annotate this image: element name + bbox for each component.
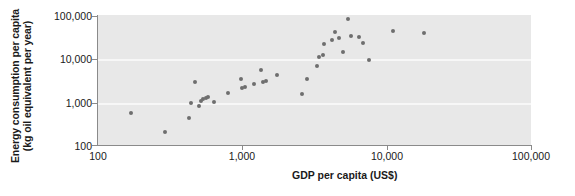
data-point <box>367 58 371 62</box>
data-point <box>243 85 247 89</box>
x-tick-label-10000: 10,000 <box>371 150 403 162</box>
data-point <box>187 116 191 120</box>
data-point <box>300 92 304 96</box>
data-point <box>163 130 167 134</box>
data-point <box>252 82 256 86</box>
data-point <box>422 31 426 35</box>
gridline-10000 <box>98 59 531 61</box>
data-point <box>212 100 216 104</box>
data-point <box>259 68 263 72</box>
x-axis-title: GDP per capita (US$) <box>292 169 397 181</box>
scatter-chart: Energy consumption per capita (kg oil eq… <box>0 0 575 196</box>
data-point <box>193 80 197 84</box>
data-point <box>275 73 279 77</box>
x-tick-label-100000: 100,000 <box>512 150 550 162</box>
data-point <box>330 38 334 42</box>
y-tick-label-100000: 100,000 <box>30 10 92 22</box>
data-point <box>239 77 243 81</box>
gridline-1000 <box>98 103 531 105</box>
data-point <box>305 77 309 81</box>
y-tick-label-100: 100 <box>30 140 92 152</box>
data-point <box>346 17 350 21</box>
data-point <box>189 101 193 105</box>
plot-area <box>98 15 531 145</box>
data-point <box>361 41 365 45</box>
x-tick-mark-100000 <box>531 145 532 150</box>
y-tick-label-10000: 10,000 <box>30 53 92 65</box>
data-point <box>333 30 337 34</box>
data-point <box>349 34 353 38</box>
x-tick-label-100: 100 <box>89 150 107 162</box>
data-point <box>357 35 361 39</box>
y-tick-label-1000: 1,000 <box>30 97 92 109</box>
x-tick-mark-1000 <box>242 145 243 150</box>
x-tick-label-1000: 1,000 <box>229 150 255 162</box>
y-axis-ticks: 100,000 10,000 1,000 100 <box>28 0 92 196</box>
x-axis-line <box>97 145 532 146</box>
data-point <box>197 104 201 108</box>
data-point <box>322 42 326 46</box>
data-point <box>226 91 230 95</box>
data-point <box>321 53 325 57</box>
data-point <box>391 29 395 33</box>
data-point <box>206 95 210 99</box>
data-point <box>337 36 341 40</box>
data-point <box>264 79 268 83</box>
data-point <box>315 64 319 68</box>
x-tick-mark-10000 <box>387 145 388 150</box>
data-point <box>341 50 345 54</box>
data-point <box>129 111 133 115</box>
